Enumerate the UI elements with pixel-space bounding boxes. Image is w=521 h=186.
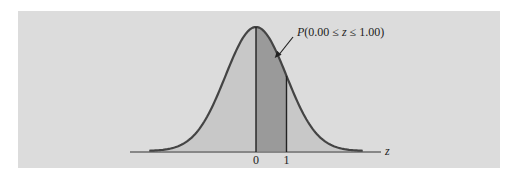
probability-annotation: P(0.00 ≤ z ≤ 1.00) — [296, 25, 384, 39]
shaded-probability-region — [256, 27, 287, 151]
z-axis-label: z — [384, 144, 390, 158]
annotation-arrow — [279, 37, 293, 55]
normal-curve-chart: 01 z P(0.00 ≤ z ≤ 1.00) — [0, 0, 521, 186]
x-tick-label-0: 0 — [253, 153, 259, 167]
x-tick-label-1: 1 — [284, 153, 290, 167]
